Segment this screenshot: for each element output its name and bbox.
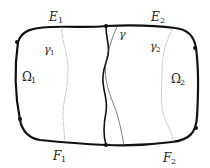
dot-right-top — [193, 46, 197, 50]
svg-text:1: 1 — [31, 76, 36, 85]
dot-left-bottom — [18, 117, 22, 121]
dot-left-top — [15, 40, 19, 44]
svg-text:2: 2 — [171, 157, 176, 166]
label-gamma: γ — [119, 28, 126, 41]
domain-diagram: E 1 E 2 F 1 F 2 γ γ 1 γ 2 Ω 1 Ω 2 — [0, 0, 210, 168]
svg-text:γ: γ — [119, 28, 126, 41]
label-gamma1: γ 1 — [44, 43, 54, 57]
svg-text:1: 1 — [61, 155, 66, 164]
gamma1-curve — [61, 27, 68, 142]
dot-center-bottom — [104, 143, 108, 147]
svg-text:E: E — [48, 10, 58, 24]
svg-text:2: 2 — [180, 78, 185, 87]
label-Omega1: Ω 1 — [22, 70, 36, 85]
dot-right-bottom — [194, 126, 198, 130]
label-E2: E 2 — [150, 10, 165, 25]
dot-center-top — [104, 24, 108, 28]
svg-text:2: 2 — [156, 46, 160, 54]
label-F2: F 2 — [162, 151, 176, 166]
svg-text:2: 2 — [160, 16, 165, 25]
label-gamma2: γ 2 — [150, 40, 160, 54]
label-F1: F 1 — [52, 149, 66, 164]
svg-text:E: E — [150, 10, 160, 24]
svg-text:1: 1 — [58, 16, 63, 25]
svg-text:1: 1 — [50, 49, 54, 57]
label-E1: E 1 — [48, 10, 63, 25]
label-Omega2: Ω 2 — [171, 72, 185, 87]
